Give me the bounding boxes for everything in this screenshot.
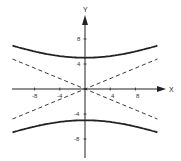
y-axis-label: Y <box>83 6 88 13</box>
y-tick-label: -8 <box>74 136 80 142</box>
y-axis-arrow-icon <box>82 15 88 25</box>
y-tick-label: 4 <box>77 61 81 67</box>
y-axis: Y <box>82 6 88 158</box>
x-tick-label: -4 <box>57 93 63 99</box>
x-tick-label: 8 <box>136 93 140 99</box>
hyperbola-chart: X Y -8 -4 4 8 8 4 -4 -8 <box>0 0 181 161</box>
y-tick-label: -4 <box>74 111 80 117</box>
x-axis-arrow-icon <box>157 86 166 92</box>
y-tick-label: 8 <box>77 36 81 42</box>
x-tick-label: 4 <box>111 93 115 99</box>
x-axis-label: X <box>169 86 174 93</box>
x-tick-label: -8 <box>32 93 38 99</box>
x-tick-labels: -8 -4 4 8 <box>32 93 140 99</box>
